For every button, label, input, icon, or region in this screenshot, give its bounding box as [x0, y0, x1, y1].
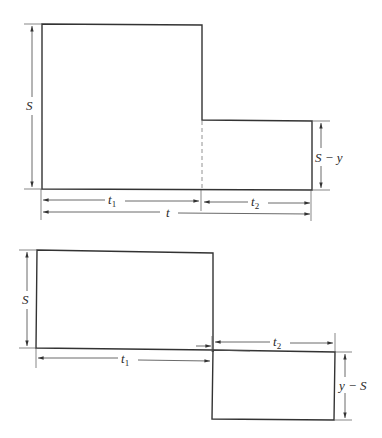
top-diagram: S S − y t1 t2 t	[24, 24, 343, 221]
label-S: S	[26, 98, 33, 113]
dimension-t2-bottom: t2	[215, 334, 333, 351]
dimension-S-bottom: S	[22, 252, 29, 346]
bottom-positive-rect	[36, 250, 213, 350]
label-t1: t1	[121, 351, 129, 368]
dimension-t2-top: t2	[204, 194, 310, 211]
dimension-t-total: t	[43, 205, 310, 220]
dimension-t1-top: t1	[43, 192, 199, 209]
label-t1: t1	[108, 192, 116, 209]
bottom-negative-rect	[212, 350, 335, 420]
label-t: t	[166, 205, 170, 220]
bottom-diagram: S y − S t1 t2	[19, 250, 367, 420]
label-S-minus-y: S − y	[315, 150, 343, 165]
diagram-canvas: S S − y t1 t2 t	[0, 0, 382, 438]
dimension-t1-bottom: t1	[38, 351, 210, 368]
label-S: S	[22, 292, 29, 307]
label-y-minus-S: y − S	[337, 378, 367, 393]
dimension-S-top: S	[26, 26, 33, 187]
dimension-S-minus-y: S − y	[315, 123, 343, 188]
label-t2: t2	[273, 334, 281, 351]
label-t2: t2	[251, 194, 259, 211]
dimension-y-minus-S: y − S	[337, 354, 367, 418]
top-stepped-profile	[42, 24, 312, 190]
